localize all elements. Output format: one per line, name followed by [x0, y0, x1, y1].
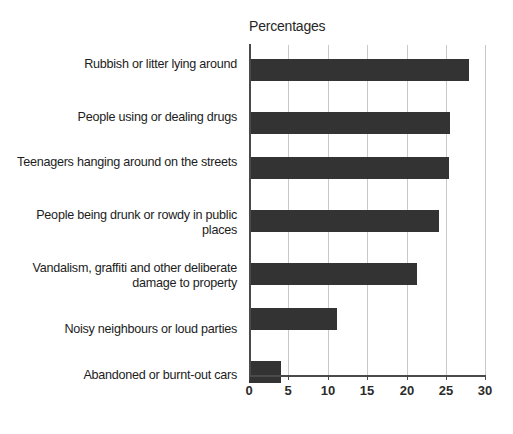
category-label: Vandalism, graffiti and other deliberate… [5, 261, 237, 291]
category-label: People being drunk or rowdy in public pl… [5, 208, 237, 238]
x-tick-mark [249, 375, 250, 380]
gridline-25 [446, 45, 447, 375]
x-tick-mark [328, 375, 329, 380]
x-tick-label: 15 [360, 383, 374, 398]
x-tick-mark [288, 375, 289, 380]
category-label: People using or dealing drugs [5, 110, 237, 125]
category-label: Noisy neighbours or loud parties [5, 322, 237, 337]
x-tick-label: 30 [478, 383, 492, 398]
x-tick-mark [485, 375, 486, 380]
x-tick-label: 20 [400, 383, 414, 398]
bar-people-being-drunk-or-rowdy-in-public-places [249, 210, 439, 232]
x-tick-label: 25 [439, 383, 453, 398]
x-tick-mark [446, 375, 447, 380]
x-tick-label: 0 [245, 383, 252, 398]
axis-title: Percentages [249, 18, 325, 34]
category-label: Rubbish or litter lying around [5, 57, 237, 72]
category-label-list: Rubbish or litter lying around People us… [0, 45, 243, 375]
x-tick-mark [407, 375, 408, 380]
plot-area [249, 45, 485, 375]
bar-noisy-neighbours-or-loud-parties [249, 308, 337, 330]
category-label: Teenagers hanging around on the streets [5, 155, 237, 170]
bar-rubbish-or-litter-lying-around [249, 59, 469, 81]
bar-teenagers-hanging-around-on-the-streets [249, 157, 449, 179]
gridline-30 [485, 45, 486, 375]
x-tick-label: 10 [321, 383, 335, 398]
x-tick-mark [367, 375, 368, 380]
y-axis-line [249, 44, 251, 376]
category-label: Abandoned or burnt-out cars [5, 368, 237, 383]
bar-vandalism-graffiti-and-other-deliberate-damage [249, 263, 417, 285]
x-tick-label: 5 [284, 383, 291, 398]
bar-abandoned-or-burnt-out-cars [249, 361, 281, 383]
bar-chart: Percentages Rubbish or litter lying arou… [0, 0, 513, 434]
bar-people-using-or-dealing-drugs [249, 112, 450, 134]
